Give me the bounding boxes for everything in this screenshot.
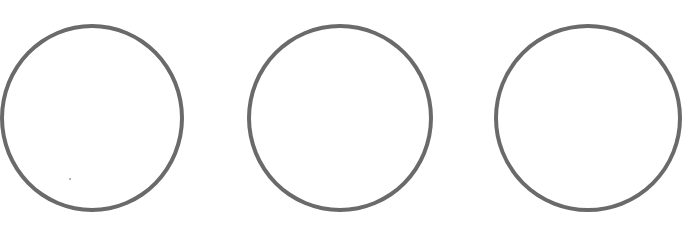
circle-outline-3-partial	[494, 24, 682, 212]
circle-outline-2	[247, 24, 433, 212]
scan-speck	[69, 178, 71, 180]
circle-outline-1	[0, 24, 184, 212]
